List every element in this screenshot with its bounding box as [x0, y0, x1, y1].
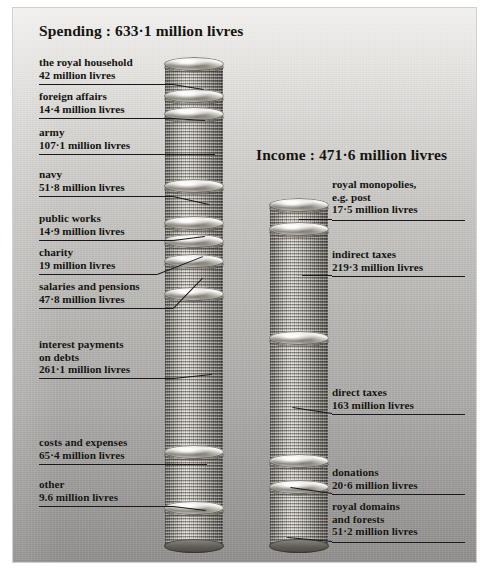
income-item-label: direct taxes	[332, 386, 414, 399]
income-item-label: donations	[332, 466, 418, 479]
income-item-leader-line	[290, 487, 332, 494]
spending-item-rule	[39, 240, 173, 241]
income-item-amount: 163 million livres	[332, 399, 414, 412]
spending-item-callout: other9.6 million livres	[39, 478, 118, 503]
spending-item-rule	[39, 84, 173, 85]
spending-item-label: interest paymentson debts	[39, 338, 130, 363]
spending-item-label: salaries and pensions	[39, 280, 140, 293]
spending-item-leader-line	[173, 374, 212, 379]
income-item-leader-line	[299, 219, 332, 220]
spending-item-rule	[39, 506, 173, 507]
spending-item-callout: navy51·8 million livres	[39, 168, 125, 193]
spending-item-amount: 19 million livres	[39, 259, 115, 272]
spending-item-label: army	[39, 126, 130, 139]
spending-item-label: public works	[39, 212, 125, 225]
income-item-leader-line	[292, 407, 332, 414]
figure-panel: Spending : 633·1 million livres Income :…	[13, 8, 476, 562]
spending-item-rule	[39, 196, 173, 197]
spending-item-amount: 261·1 million livres	[39, 363, 130, 376]
spending-title: Spending : 633·1 million livres	[39, 22, 243, 40]
spending-item-label: charity	[39, 246, 115, 259]
spending-item-rule	[39, 118, 173, 119]
spending-item-callout: army107·1 million livres	[39, 126, 130, 151]
spending-item-leader-line	[173, 196, 209, 205]
spending-item-label: navy	[39, 168, 125, 181]
income-title: Income : 471·6 million livres	[256, 146, 447, 164]
income-item-rule	[332, 276, 465, 277]
spending-item-leader-line	[173, 278, 203, 309]
income-item-callout: indirect taxes219·3 million livres	[332, 248, 423, 273]
income-item-amount: 219·3 million livres	[332, 261, 423, 274]
spending-item-leader-line	[173, 236, 205, 241]
spending-item-rule	[39, 308, 173, 309]
spending-item-rule	[39, 274, 157, 275]
spending-item-amount: 9.6 million livres	[39, 491, 118, 504]
spending-item-rule	[39, 378, 173, 379]
spending-item-callout: public works14·9 million livres	[39, 212, 125, 237]
income-item-label: royal monopolies,e.g. post	[332, 178, 418, 203]
spending-item-callout: costs and expenses65·4 million livres	[39, 436, 127, 461]
spending-item-amount: 65·4 million livres	[39, 449, 127, 462]
spending-item-amount: 51·8 million livres	[39, 181, 125, 194]
income-item-amount: 17·5 million livres	[332, 203, 418, 216]
income-item-callout: royal monopolies,e.g. post17·5 million l…	[332, 178, 418, 216]
income-item-amount: 51·2 million livres	[332, 525, 418, 538]
spending-item-leader-line	[173, 464, 207, 465]
spending-item-label: the royal household	[39, 56, 133, 69]
income-item-callout: donations20·6 million livres	[332, 466, 418, 491]
income-item-amount: 20·6 million livres	[332, 479, 418, 492]
income-item-label: royal domainsand forests	[332, 500, 418, 525]
spending-item-leader-line	[173, 118, 205, 121]
spending-item-leader-line	[173, 84, 204, 90]
income-item-label: indirect taxes	[332, 248, 423, 261]
spending-item-amount: 42 million livres	[39, 69, 133, 82]
spending-item-callout: salaries and pensions47·8 million livres	[39, 280, 140, 305]
spending-item-label: costs and expenses	[39, 436, 127, 449]
spending-item-leader-line	[157, 256, 203, 275]
spending-item-callout: the royal household42 million livres	[39, 56, 133, 81]
income-item-leader-line	[302, 275, 332, 276]
spending-item-leader-line	[173, 506, 206, 511]
spending-item-label: foreign affairs	[39, 90, 125, 103]
spending-item-amount: 14·9 million livres	[39, 225, 125, 238]
income-item-callout: royal domainsand forests51·2 million liv…	[332, 500, 418, 538]
income-item-rule	[332, 414, 465, 415]
spending-item-callout: charity19 million livres	[39, 246, 115, 271]
spending-item-amount: 47·8 million livres	[39, 293, 140, 306]
spending-item-amount: 107·1 million livres	[39, 139, 130, 152]
spending-item-rule	[39, 154, 173, 155]
spending-item-amount: 14·4 million livres	[39, 103, 125, 116]
income-item-rule	[332, 494, 465, 495]
income-item-leader-line	[287, 537, 332, 542]
income-item-callout: direct taxes163 million livres	[332, 386, 414, 411]
income-item-rule	[332, 542, 465, 543]
spending-item-callout: interest paymentson debts261·1 million l…	[39, 338, 130, 376]
income-item-rule	[332, 220, 465, 221]
spending-item-rule	[39, 464, 173, 465]
spending-item-leader-line	[173, 154, 215, 155]
spending-item-label: other	[39, 478, 118, 491]
spending-item-callout: foreign affairs14·4 million livres	[39, 90, 125, 115]
